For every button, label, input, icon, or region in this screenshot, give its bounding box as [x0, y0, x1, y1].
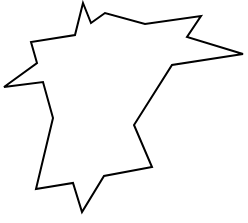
diagram-canvas [0, 0, 248, 223]
